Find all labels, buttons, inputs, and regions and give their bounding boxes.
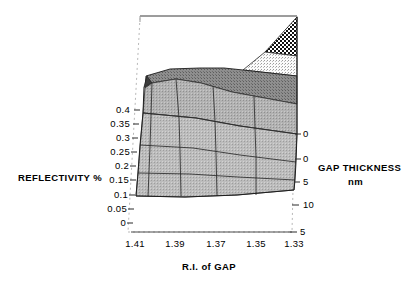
z-tick-1: 0: [303, 154, 309, 164]
y-tick-1: 0.35: [92, 119, 130, 129]
y-tick-7: 0.05: [92, 204, 127, 214]
z-axis-unit: nm: [348, 177, 363, 187]
z-tick-2: 5: [303, 177, 309, 187]
y-tick-6: 0.1: [92, 190, 128, 200]
y-tick-8: 0: [92, 218, 126, 228]
z-tick-3: 10: [303, 200, 314, 210]
y-tick-2: 0.3: [92, 133, 130, 143]
x-tick-2: 1.37: [200, 239, 232, 249]
x-tick-4: 1.33: [278, 239, 310, 249]
x-axis-title: R.I. of GAP: [182, 262, 236, 272]
z-tick-0: 0: [303, 129, 309, 139]
surface-plot: [136, 17, 297, 197]
plot-frame: [140, 16, 297, 22]
x-tick-0: 1.41: [119, 239, 151, 249]
y-tick-3: 0.25: [92, 147, 130, 157]
y-axis-title: REFLECTIVITY %: [18, 173, 102, 183]
y-tick-0: 0.4: [92, 105, 130, 115]
x-tick-3: 1.35: [240, 239, 272, 249]
band-highest: [265, 17, 297, 56]
z-axis-title: GAP THICKNESS: [318, 163, 401, 173]
x-tick-1: 1.39: [159, 239, 191, 249]
y-tick-4: 0.2: [92, 161, 129, 171]
z-tick-4: 5: [300, 227, 306, 237]
chart-canvas: 0.4 0.35 0.3 0.25 0.2 0.15 0.1 0.05 0 RE…: [0, 0, 407, 284]
